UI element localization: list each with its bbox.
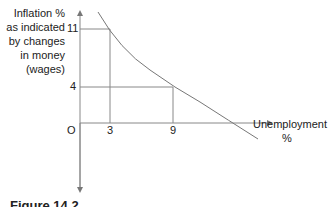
tick-x-3: 3: [107, 124, 113, 136]
figure-caption: Figure 14.2: [10, 198, 79, 207]
x-axis-label: Unemployment: [253, 118, 327, 130]
y-label-line: by changes: [0, 34, 65, 48]
origin-label: O: [67, 124, 76, 136]
y-label-line: in money: [0, 48, 65, 62]
y-label-line: as indicated: [0, 20, 65, 34]
phillips-curve: [98, 12, 258, 139]
y-label-line: Inflation %: [0, 6, 65, 20]
y-label-line: (wages): [0, 62, 65, 76]
tick-y-11: 11: [67, 22, 78, 34]
y-axis-label: Inflation % as indicated by changes in m…: [0, 6, 65, 76]
tick-x-9: 9: [170, 124, 176, 136]
tick-y-4: 4: [70, 80, 76, 92]
x-axis-label-unit: %: [282, 132, 292, 144]
